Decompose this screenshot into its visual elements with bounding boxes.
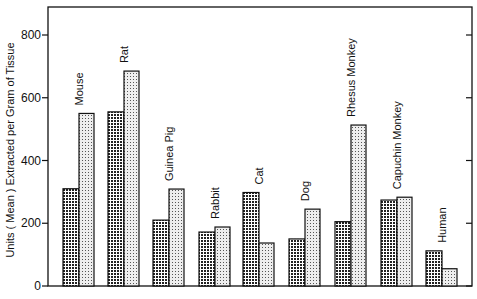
category-label: Cat <box>253 167 265 184</box>
y-tick-label: 200 <box>21 216 41 230</box>
bar-series2 <box>124 71 139 286</box>
bar-series1 <box>426 251 442 286</box>
bar-series1 <box>335 222 351 286</box>
bar-series1 <box>199 232 215 286</box>
bar-series2 <box>351 125 366 286</box>
category-label: Human <box>436 207 448 242</box>
bar-series2 <box>305 209 320 286</box>
category-label: Mouse <box>73 72 85 105</box>
category-label: Capuchin Monkey <box>391 101 403 190</box>
category-label: Rat <box>118 46 130 63</box>
bar-series1 <box>243 193 259 286</box>
y-axis-label: Units ( Mean ) Extracted per Gram of Tis… <box>4 42 16 257</box>
bar-series2 <box>79 113 94 286</box>
bar-series2 <box>397 197 412 286</box>
y-tick-label: 800 <box>21 28 41 42</box>
chart-canvas: 0200400600800 MouseRatGuinea PigRabbitCa… <box>0 0 477 299</box>
y-tick-label: 400 <box>21 154 41 168</box>
bar-series1 <box>108 112 124 286</box>
y-tick-label: 0 <box>34 279 41 293</box>
bar-chart: 0200400600800 MouseRatGuinea PigRabbitCa… <box>0 0 477 299</box>
category-label: Rhesus Monkey <box>345 38 357 117</box>
bar-series1 <box>63 189 79 286</box>
category-label: Dog <box>299 181 311 201</box>
bar-series2 <box>442 269 457 286</box>
bar-series1 <box>289 239 305 286</box>
y-tick-label: 600 <box>21 91 41 105</box>
bar-series2 <box>169 189 184 286</box>
bar-series2 <box>259 243 274 286</box>
bar-series1 <box>381 200 397 286</box>
category-label: Guinea Pig <box>163 127 175 181</box>
bar-series1 <box>153 220 169 286</box>
bar-series2 <box>215 227 230 286</box>
category-label: Rabbit <box>209 187 221 219</box>
